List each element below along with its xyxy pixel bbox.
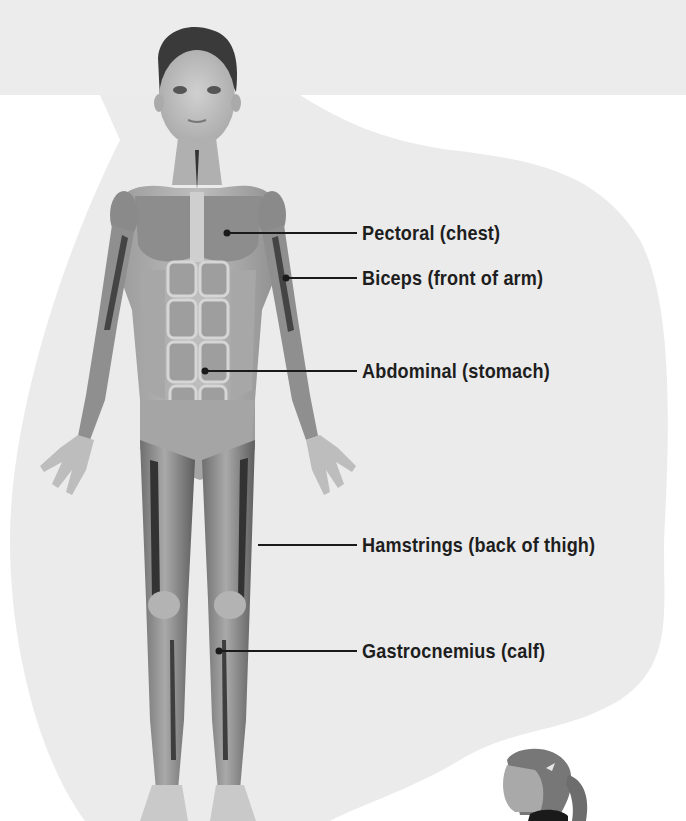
label-abdominal: Abdominal (stomach) (362, 359, 550, 383)
biceps-leader-dot (283, 275, 290, 282)
head (159, 50, 235, 146)
label-biceps: Biceps (front of arm) (362, 266, 543, 290)
label-gastrocnemius: Gastrocnemius (calf) (362, 639, 545, 663)
muscle-diagram: Pectoral (chest) Biceps (front of arm) A… (0, 0, 686, 821)
pectoral-muscle-right (204, 196, 262, 262)
gastrocnemius-leader-dot (216, 648, 223, 655)
top-background-band (0, 0, 686, 95)
girl-profile-illustration (503, 749, 587, 821)
abdominal-leader-dot (202, 368, 209, 375)
label-hamstrings: Hamstrings (back of thigh) (362, 533, 595, 557)
label-pectoral: Pectoral (chest) (362, 221, 500, 245)
pectoral-leader-dot (224, 230, 231, 237)
pectoral-muscle-left (135, 196, 190, 262)
